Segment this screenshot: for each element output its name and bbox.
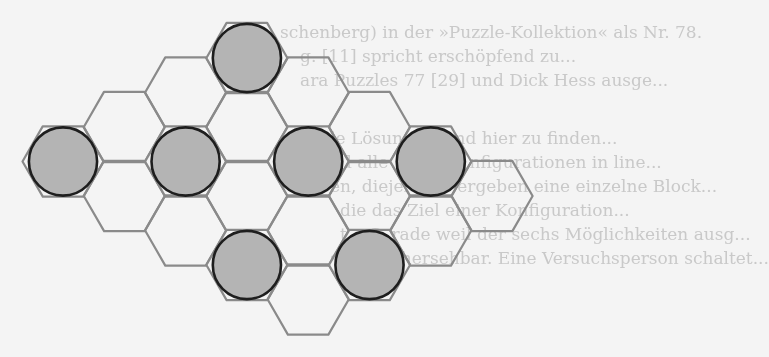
filled-circle-token bbox=[335, 231, 403, 299]
filled-circle-token bbox=[29, 127, 97, 195]
filled-circle-token bbox=[213, 24, 281, 92]
filled-circle-token bbox=[213, 231, 281, 299]
filled-circle-token bbox=[274, 127, 342, 195]
filled-circle-token bbox=[397, 127, 465, 195]
filled-circle-token bbox=[152, 127, 220, 195]
